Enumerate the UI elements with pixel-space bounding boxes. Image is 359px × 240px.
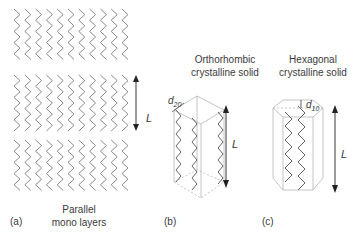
chain-icon: [285, 112, 292, 182]
chain-icon: [122, 75, 128, 131]
panel-c-spacing-label: d10: [306, 99, 319, 115]
chain-icon: [111, 75, 117, 131]
arrowhead-up-icon: [223, 105, 229, 113]
chain-icon: [57, 9, 63, 59]
chain-icon: [111, 140, 117, 190]
chain-icon: [14, 75, 20, 131]
prism-bottom: [273, 178, 323, 190]
box-bottom-face: [174, 170, 224, 198]
box-top-face: [174, 96, 224, 124]
panel-b-tag: (b): [164, 216, 176, 228]
box-edges: [174, 96, 224, 198]
panel-c-length-label: L: [341, 148, 347, 160]
panel-a-length-label: L: [146, 112, 152, 124]
panel-c-tag: (c): [262, 216, 274, 228]
chain-icon: [68, 140, 74, 190]
chain-icon: [57, 75, 63, 131]
chain-icon: [14, 9, 20, 59]
panel-b-length-label: L: [232, 138, 238, 150]
arrowhead-up-icon: [332, 105, 338, 113]
chain-icon: [79, 9, 85, 59]
chain-icon: [46, 75, 52, 131]
chain-icon: [25, 140, 31, 190]
panel-a-caption-line1: Parallel: [34, 204, 124, 216]
chain-icon: [122, 140, 128, 190]
chain-icon: [111, 9, 117, 59]
chain-icon: [57, 140, 63, 190]
chain-icon: [36, 75, 42, 131]
chain-icon: [90, 75, 96, 131]
chain-icon: [36, 140, 42, 190]
chain-icon: [298, 106, 305, 190]
arrowhead-down-icon: [332, 185, 338, 193]
chain-icon: [192, 118, 197, 190]
panel-c-title-line2: crystalline solid: [268, 67, 358, 79]
panel-c-title-line1: Hexagonal: [268, 54, 358, 66]
panel-b-title-line1: Orthorhombic: [180, 54, 270, 66]
panel-a-tag: (a): [10, 216, 22, 228]
chain-icon: [79, 75, 85, 131]
panel-b-spacing-label: d20: [168, 95, 181, 111]
panel-a-caption-line2: mono layers: [34, 217, 124, 229]
panel-b-title-line2: crystalline solid: [180, 67, 270, 79]
arrowhead-up-icon: [133, 75, 139, 82]
chain-icon: [100, 75, 106, 131]
chain-icon: [90, 9, 96, 59]
chain-icon: [68, 9, 74, 59]
chain-icon: [100, 140, 106, 190]
chain-icon: [176, 110, 181, 182]
chain-icon: [25, 9, 31, 59]
chain-icon: [36, 9, 42, 59]
arrowhead-down-icon: [133, 124, 139, 131]
chain-icon: [68, 75, 74, 131]
figure: L Parallel mono layers (a) Orthorhombic …: [0, 0, 359, 240]
chain-icon: [218, 112, 223, 184]
chain-icon: [25, 75, 31, 131]
chain-icon: [46, 140, 52, 190]
chain-icon: [46, 9, 52, 59]
chain-icon: [14, 140, 20, 190]
chain-icon: [122, 9, 128, 59]
chain-icon: [90, 140, 96, 190]
chain-icon: [100, 9, 106, 59]
arrowhead-down-icon: [223, 180, 229, 188]
chain-icon: [79, 140, 85, 190]
